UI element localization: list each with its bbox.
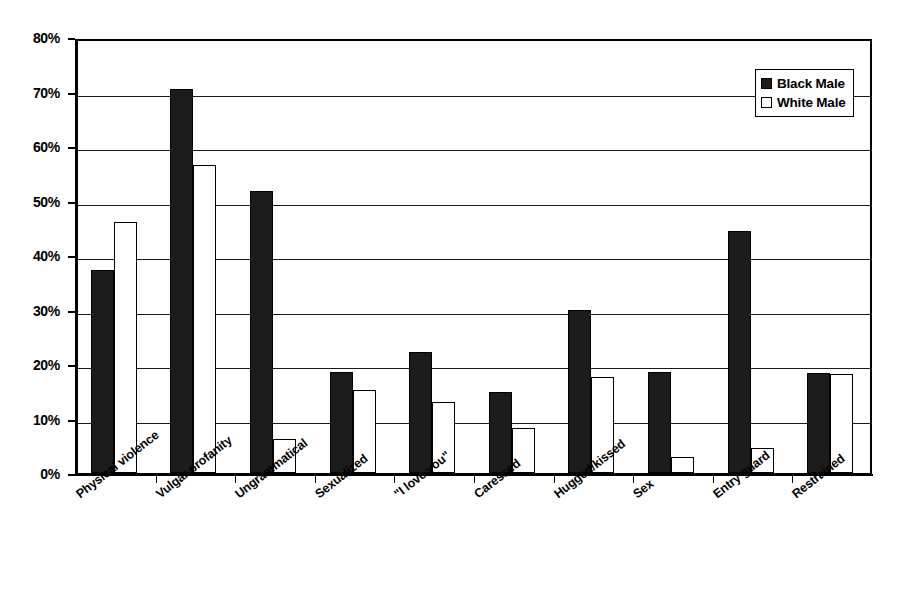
y-tick-mark (68, 420, 75, 422)
legend-label-black-male: Black Male (777, 76, 845, 91)
y-tick-mark (68, 202, 75, 204)
x-tick-mark (792, 476, 793, 483)
y-tick-label: 40% (2, 248, 60, 264)
y-tick-mark (68, 38, 75, 40)
gridline (78, 96, 870, 97)
bar (648, 372, 671, 473)
y-tick-label: 70% (2, 85, 60, 101)
y-tick-mark (68, 93, 75, 95)
y-tick-mark (68, 256, 75, 258)
chart-legend: Black Male White Male (755, 69, 854, 117)
bar (330, 372, 353, 473)
legend-swatch-icon-black (761, 78, 772, 89)
x-tick-mark (156, 476, 157, 483)
legend-label-white-male: White Male (777, 95, 846, 110)
x-tick-mark (554, 476, 555, 483)
bar (409, 352, 432, 473)
y-tick-label: 30% (2, 303, 60, 319)
y-tick-mark (68, 311, 75, 313)
legend-item-white-male: White Male (761, 93, 846, 112)
x-tick-mark (474, 476, 475, 483)
bar (671, 457, 694, 473)
y-tick-label: 10% (2, 412, 60, 428)
y-axis-line (75, 39, 77, 476)
gridline (78, 150, 870, 151)
plot-area (76, 39, 872, 475)
bar (193, 165, 216, 473)
bar (170, 89, 193, 473)
x-tick-mark (394, 476, 395, 483)
y-tick-label: 0% (2, 466, 60, 482)
y-tick-label: 80% (2, 30, 60, 46)
bar (91, 270, 114, 473)
bar (250, 191, 273, 473)
y-tick-label: 20% (2, 357, 60, 373)
x-tick-mark (633, 476, 634, 483)
bar-chart: 0%10%20%30%40%50%60%70%80% Physical viol… (0, 0, 901, 602)
bar (568, 310, 591, 473)
legend-swatch-icon-white (761, 97, 772, 108)
category-label: Sex (631, 477, 657, 501)
bar (728, 231, 751, 473)
x-tick-mark (235, 476, 236, 483)
y-tick-mark (68, 474, 75, 476)
y-tick-label: 60% (2, 139, 60, 155)
bar (114, 222, 137, 473)
y-tick-mark (68, 147, 75, 149)
bar (807, 373, 830, 473)
y-tick-mark (68, 365, 75, 367)
x-tick-mark (315, 476, 316, 483)
y-tick-label: 50% (2, 194, 60, 210)
x-tick-mark (713, 476, 714, 483)
legend-item-black-male: Black Male (761, 74, 846, 93)
